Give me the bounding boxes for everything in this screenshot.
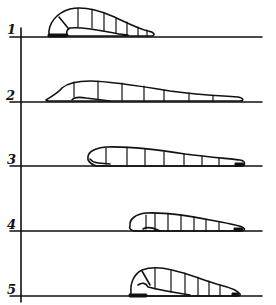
caterpillar-stage-1 bbox=[48, 8, 154, 37]
diagram-canvas bbox=[0, 0, 276, 305]
stage-label-2: 2 bbox=[6, 89, 15, 102]
caterpillar-stage-5 bbox=[129, 268, 240, 297]
stage-label-5: 5 bbox=[7, 283, 16, 296]
stage-label-4: 4 bbox=[7, 218, 16, 231]
caterpillar-stage-3 bbox=[88, 147, 245, 166]
caterpillar-stage-4 bbox=[130, 213, 245, 231]
caterpillar-locomotion-diagram: 1 2 3 4 5 bbox=[0, 0, 276, 305]
caterpillar-stage-2 bbox=[46, 81, 243, 101]
stage-label-3: 3 bbox=[7, 153, 16, 166]
stage-label-1: 1 bbox=[7, 23, 16, 36]
